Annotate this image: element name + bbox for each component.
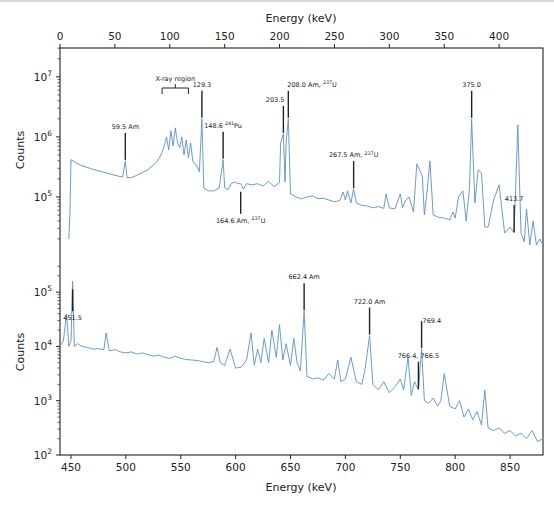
x-tick-label: 650	[280, 461, 300, 473]
x-tick-label: 300	[379, 30, 399, 42]
x-tick-label: 700	[335, 461, 355, 473]
x-tick-label: 250	[324, 30, 344, 42]
axes-box	[60, 48, 543, 455]
x-tick-label: 500	[116, 461, 136, 473]
x-tick-label: 150	[215, 30, 235, 42]
y-tick-label: 105	[34, 189, 52, 203]
y-tick-label: 104	[34, 338, 52, 352]
x-tick-label: 800	[445, 461, 465, 473]
peak-label: 203.5	[266, 96, 285, 104]
xray-region-label: X-ray region	[155, 75, 195, 83]
bottom-x-axis-title: Energy (keV)	[266, 481, 337, 494]
bottom-y-axis-title: Counts	[14, 333, 27, 372]
y-tick-label: 103	[34, 393, 52, 407]
top-spectrum-panel: 05010015020025030035040010510610759.5 Am…	[34, 30, 543, 245]
peak-label: 413.7	[505, 195, 524, 203]
y-tick-label: 106	[34, 129, 52, 143]
x-tick-label: 50	[108, 30, 121, 42]
peak-label: 267.5 Am, 237U	[329, 151, 379, 160]
peak-label: 164.6 Am, 237U	[216, 216, 266, 225]
y-tick-label: 102	[34, 447, 52, 461]
x-tick-label: 100	[160, 30, 180, 42]
top-x-axis-title: Energy (keV)	[266, 12, 337, 25]
peak-label: 662.4 Am	[288, 273, 319, 281]
peak-label: 59.5 Am	[112, 123, 139, 131]
peak-label: 766.4, 766.5	[398, 352, 439, 360]
x-tick-label: 600	[226, 461, 246, 473]
peak-label: 769.4	[423, 317, 442, 325]
x-tick-label: 350	[434, 30, 454, 42]
peak-label: 148.6 241Pu	[204, 121, 242, 129]
peak-label: 208.0 Am, 237U	[287, 80, 337, 89]
x-tick-label: 400	[489, 30, 509, 42]
bottom-spectrum-panel: 4505005506006507007508008501021031041054…	[34, 266, 543, 473]
xray-region-bracket	[162, 84, 188, 94]
x-tick-label: 850	[500, 461, 520, 473]
x-tick-label: 750	[390, 461, 410, 473]
spectrum-line	[69, 119, 543, 245]
x-tick-label: 550	[171, 461, 191, 473]
gamma-spectrum-figure: 05010015020025030035040010510610759.5 Am…	[0, 0, 554, 508]
y-tick-label: 105	[34, 284, 52, 298]
x-tick-label: 0	[57, 30, 64, 42]
peak-label: 129.3	[193, 81, 212, 89]
peak-label: 722.0 Am	[354, 298, 385, 306]
peak-label: 375.0	[462, 81, 481, 89]
spectrum-line	[60, 281, 543, 441]
peak-label: 451.5	[63, 314, 82, 322]
x-tick-label: 200	[270, 30, 290, 42]
x-tick-label: 450	[61, 461, 81, 473]
top-y-axis-title: Counts	[14, 131, 27, 170]
plot-frame	[60, 48, 543, 455]
y-tick-label: 107	[34, 69, 52, 83]
